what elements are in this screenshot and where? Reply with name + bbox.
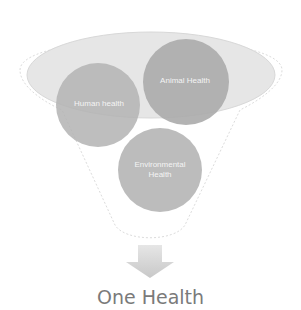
label-environmental-health: Environmental Health [130,160,190,180]
output-title: One Health [0,286,301,308]
label-animal-health: Animal Health [152,76,218,86]
down-arrow-icon [126,245,174,278]
funnel-diagram [0,0,301,310]
label-human-health: Human health [66,99,132,109]
